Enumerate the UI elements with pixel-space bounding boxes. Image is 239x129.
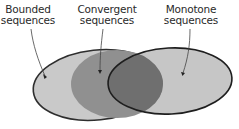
bounded-label-line2: sequences xyxy=(0,15,56,26)
convergent-label: Convergent sequences xyxy=(76,4,138,26)
bounded-leader-line xyxy=(31,29,45,76)
monotone-label-line2: sequences xyxy=(162,15,220,26)
bounded-label: Bounded sequences xyxy=(0,4,56,26)
monotone-label: Monotone sequences xyxy=(162,4,220,26)
convergent-label-line2: sequences xyxy=(76,15,138,26)
